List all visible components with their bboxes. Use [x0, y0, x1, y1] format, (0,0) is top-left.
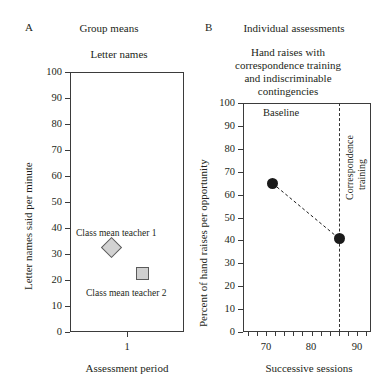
ytick-label: 40: [32, 223, 62, 234]
ytick-label: 90: [32, 93, 62, 104]
ytick-label: 50: [32, 197, 62, 208]
ytick-label: 80: [32, 119, 62, 130]
data-marker-teacher-2: [136, 267, 149, 280]
ytick-label: 30: [32, 249, 62, 260]
panel-a-title: Group means: [44, 22, 174, 35]
annotation-teacher-2: Class mean teacher 2: [86, 288, 166, 298]
figure-root: A Group means Letter names 100 90 80 70 …: [0, 0, 378, 392]
panel-a-yaxis-title: Letter names said per minute: [22, 162, 34, 290]
ytick-label: 10: [32, 301, 62, 312]
ytick-label: 60: [32, 171, 62, 182]
ytick-label: 0: [32, 327, 62, 338]
panel-a-subtitle: Letter names: [54, 48, 184, 61]
annotation-teacher-1: Class mean teacher 1: [76, 228, 156, 238]
data-point-treatment: [334, 233, 345, 244]
ytick-label: 100: [32, 67, 62, 78]
panel-a-xtick: [127, 332, 128, 337]
panel-a: A Group means Letter names 100 90 80 70 …: [0, 0, 189, 392]
data-path: [189, 0, 378, 392]
ytick-label: 20: [32, 275, 62, 286]
ytick-label: 70: [32, 145, 62, 156]
panel-a-xaxis-title: Assessment period: [62, 362, 192, 374]
panel-a-letter: A: [25, 22, 33, 33]
xtick-label: 1: [112, 342, 142, 353]
panel-b: B Individual assessments Hand raises wit…: [189, 0, 378, 392]
